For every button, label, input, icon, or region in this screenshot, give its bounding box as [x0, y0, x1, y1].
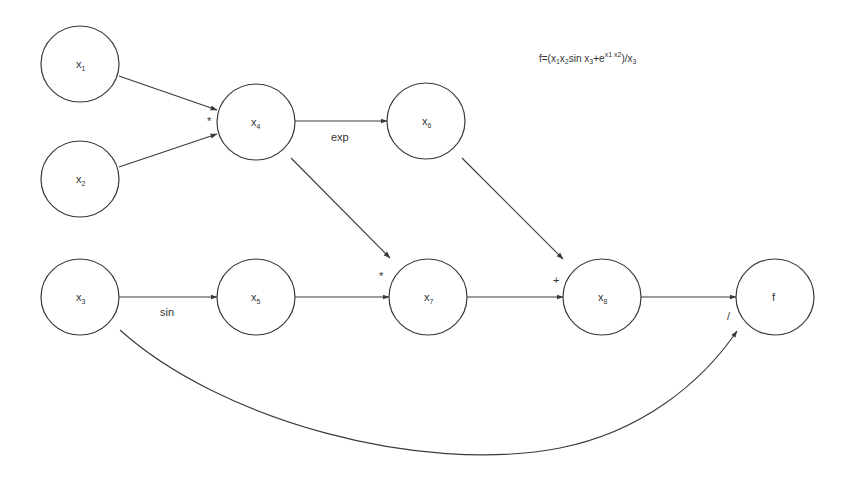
op-label-multiply-2: *: [379, 270, 384, 282]
op-label-sin: sin: [160, 306, 174, 318]
edge-x1-x4: [119, 76, 217, 110]
node-x4: x4: [217, 84, 295, 160]
node-x2: x2: [41, 141, 119, 217]
node-x7: x7: [389, 259, 467, 335]
node-x8: x8: [563, 259, 641, 335]
computational-graph: x1 x2 x4 x6 x3 x5 x7 x8 f * exp sin * + …: [0, 0, 846, 482]
op-label-exp: exp: [331, 131, 349, 143]
formula-text: f=(x1x2sin x3+ex1 x2)/x3: [539, 51, 636, 65]
op-label-plus: +: [553, 274, 559, 286]
node-x6: x6: [387, 83, 465, 159]
op-label-divide: /: [727, 310, 731, 322]
node-x3: x3: [41, 259, 119, 335]
edge-x4-x7: [291, 158, 390, 258]
edge-x6-x8: [462, 158, 563, 259]
node-x1: x1: [41, 26, 119, 102]
edge-x2-x4: [119, 134, 217, 167]
op-label-multiply-1: *: [207, 115, 212, 127]
node-f: f: [736, 259, 814, 335]
node-x5: x5: [217, 259, 295, 335]
edge-x3-f-curve: [120, 330, 737, 455]
